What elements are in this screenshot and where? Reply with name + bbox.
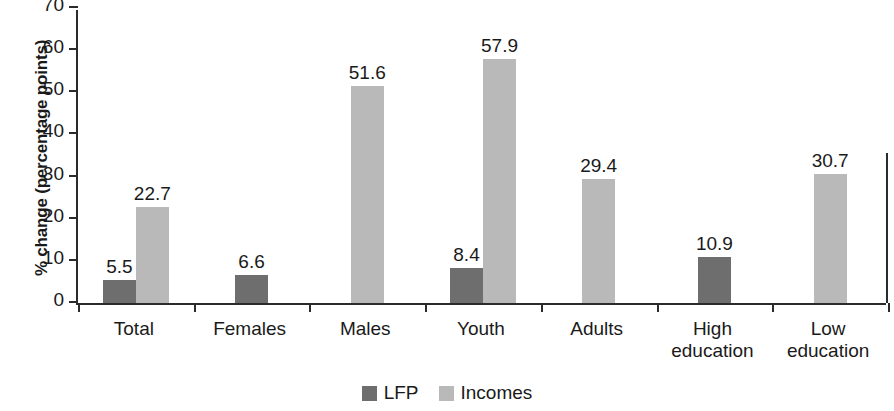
y-axis-tick: 60 xyxy=(69,48,78,50)
x-axis-tick xyxy=(78,303,80,312)
x-axis-label-line: Males xyxy=(307,318,423,340)
y-axis-tick-label: 50 xyxy=(18,79,64,99)
bar-lfp-high-education: 10.9 xyxy=(698,257,731,303)
legend-label: LFP xyxy=(384,383,419,403)
x-axis-tick xyxy=(309,303,311,312)
x-axis-tick xyxy=(541,303,543,312)
y-axis-tick-label: 60 xyxy=(18,37,64,57)
bar-value-label: 10.9 xyxy=(696,233,733,254)
bar-lfp-females: 6.6 xyxy=(235,275,268,303)
y-axis-tick: 70 xyxy=(69,6,78,8)
legend-swatch-icon xyxy=(439,386,454,401)
y-axis-tick-label: 20 xyxy=(18,206,64,226)
y-axis-tick: 30 xyxy=(69,175,78,177)
x-axis-label-males: Males xyxy=(307,318,423,340)
x-axis-label-line: education xyxy=(655,340,771,362)
legend-item-lfp[interactable]: LFP xyxy=(362,383,419,403)
y-axis-tick-label: 30 xyxy=(18,164,64,184)
x-axis-label-high-education: Higheducation xyxy=(655,318,771,362)
chart-legend: LFPIncomes xyxy=(0,383,894,403)
bar-value-label: 8.4 xyxy=(453,244,479,265)
legend-item-incomes[interactable]: Incomes xyxy=(439,383,533,403)
bar-incomes-males: 51.6 xyxy=(351,86,384,303)
y-axis-tick: 10 xyxy=(69,259,78,261)
bar-lfp-youth: 8.4 xyxy=(450,268,483,303)
axis-right-stub xyxy=(886,153,888,303)
bar-value-label: 22.7 xyxy=(134,183,171,204)
y-axis-tick-label: 10 xyxy=(18,248,64,268)
y-axis-tick-label: 0 xyxy=(18,290,64,310)
x-axis-label-line: Total xyxy=(76,318,192,340)
x-axis-label-line: education xyxy=(770,340,886,362)
y-axis-tick: 20 xyxy=(69,217,78,219)
x-axis-label-line: High xyxy=(655,318,771,340)
x-axis-label-line: Low xyxy=(770,318,886,340)
bar-incomes-youth: 57.9 xyxy=(483,59,516,303)
bar-value-label: 29.4 xyxy=(580,155,617,176)
x-axis-label-youth: Youth xyxy=(423,318,539,340)
y-axis-tick: 0 xyxy=(69,301,78,303)
x-axis-tick xyxy=(888,303,890,312)
bar-value-label: 57.9 xyxy=(481,35,518,56)
x-axis-label-line: Adults xyxy=(539,318,655,340)
y-axis-tick-label: 40 xyxy=(18,121,64,141)
x-axis-label-low-education: Loweducation xyxy=(770,318,886,362)
x-axis-tick xyxy=(425,303,427,312)
x-axis-label-adults: Adults xyxy=(539,318,655,340)
x-axis-label-line: Females xyxy=(192,318,308,340)
legend-label: Incomes xyxy=(461,383,533,403)
bar-value-label: 5.5 xyxy=(106,256,132,277)
bar-value-label: 51.6 xyxy=(349,62,386,83)
y-axis-tick: 50 xyxy=(69,90,78,92)
bar-incomes-low-education: 30.7 xyxy=(814,174,847,303)
x-axis-tick xyxy=(657,303,659,312)
x-axis-label-total: Total xyxy=(76,318,192,340)
x-axis-tick xyxy=(194,303,196,312)
bar-incomes-total: 22.7 xyxy=(136,207,169,303)
bar-chart: % change (percentage points) 70605040302… xyxy=(0,0,894,411)
legend-swatch-icon xyxy=(362,386,377,401)
bar-lfp-total: 5.5 xyxy=(103,280,136,303)
bar-incomes-adults: 29.4 xyxy=(582,179,615,303)
y-axis-tick-label: 70 xyxy=(18,0,64,15)
bar-value-label: 30.7 xyxy=(812,150,849,171)
x-axis-tick xyxy=(772,303,774,312)
x-axis-label-line: Youth xyxy=(423,318,539,340)
bar-value-label: 6.6 xyxy=(238,251,264,272)
y-axis-tick: 40 xyxy=(69,132,78,134)
x-axis-label-females: Females xyxy=(192,318,308,340)
plot-area: 706050403020100 5.522.76.651.68.457.929.… xyxy=(76,10,886,305)
